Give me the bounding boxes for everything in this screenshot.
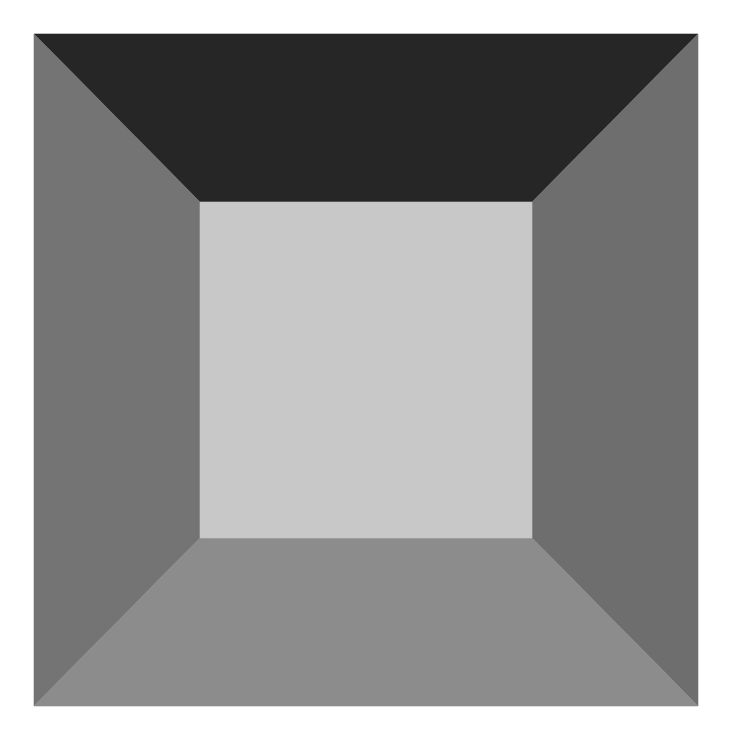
frustum-figure: [0, 0, 736, 741]
figure-canvas: [0, 0, 736, 741]
center-square: [200, 202, 532, 538]
